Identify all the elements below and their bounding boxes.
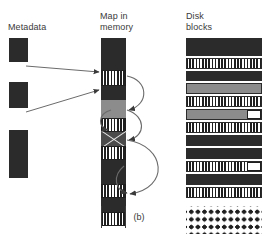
arrow-metadata-to-map-1 <box>26 66 99 72</box>
disk-block-free-tail-9 <box>247 162 261 171</box>
map-segment-7 <box>101 160 126 184</box>
disk-block-row-8 <box>186 148 262 159</box>
disk-block-row-6 <box>186 122 262 133</box>
metadata-segment-3 <box>9 108 28 130</box>
disk-block-row-5 <box>186 109 262 120</box>
map-segment-1 <box>101 70 126 86</box>
map-segment-8 <box>101 184 126 198</box>
metadata-segment-5 <box>9 178 28 206</box>
metadata-column <box>9 38 28 206</box>
arrow-map-chain-2 <box>127 110 142 140</box>
disk-block-row-4 <box>186 96 262 107</box>
column-label-metadata: Metadata <box>8 22 46 33</box>
column-label-map-in-memory: Map in memory <box>100 11 133 32</box>
map-segment-5 <box>101 132 126 146</box>
disk-blocks-column <box>186 38 262 234</box>
disk-block-row-11 <box>186 187 262 198</box>
disk-block-row-0 <box>186 38 262 56</box>
disk-block-free-tail-5 <box>247 110 261 119</box>
column-label-disk-blocks: Disk blocks <box>186 11 212 32</box>
disk-block-row-9 <box>186 161 262 172</box>
figure-caption: (b) <box>0 212 278 222</box>
figure-container: Metadata Map in memory Disk blocks <box>0 0 278 234</box>
map-segment-11 <box>101 226 126 234</box>
disk-block-row-2 <box>186 71 262 81</box>
metadata-segment-2 <box>9 82 28 108</box>
disk-block-row-10 <box>186 174 262 185</box>
map-segment-9 <box>101 198 126 212</box>
arrow-map-chain-1 <box>127 76 144 110</box>
disk-block-row-1 <box>186 58 262 69</box>
metadata-segment-1 <box>9 62 28 82</box>
arrow-map-chain-3 <box>127 140 158 194</box>
disk-block-row-3 <box>186 83 262 94</box>
metadata-segment-0 <box>9 38 28 62</box>
map-segment-3 <box>101 100 126 118</box>
map-segment-2 <box>101 86 126 100</box>
map-segment-6 <box>101 146 126 160</box>
map-segment-0 <box>101 38 126 70</box>
map-segment-4 <box>101 118 126 132</box>
arrow-metadata-to-map-2 <box>26 90 99 112</box>
map-in-memory-column <box>101 38 126 206</box>
disk-block-row-7 <box>186 135 262 146</box>
metadata-segment-4 <box>9 130 28 178</box>
